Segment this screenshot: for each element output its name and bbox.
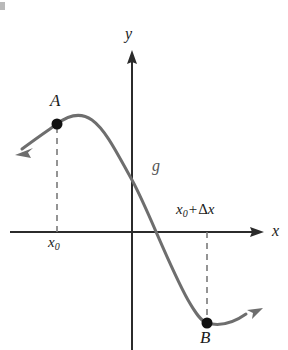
tick-label-delta-base: x xyxy=(176,201,183,217)
x-axis-arrowhead-icon xyxy=(250,227,264,237)
point-a-label: A xyxy=(50,92,60,109)
x-axis-label: x xyxy=(272,223,279,239)
y-axis-label: y xyxy=(125,26,132,42)
curve-right-arrowhead-icon xyxy=(247,308,263,319)
tick-label-x0-subscript: 0 xyxy=(55,241,60,252)
point-a-marker xyxy=(52,119,63,130)
tick-label-delta-operator: + xyxy=(188,201,198,217)
curve-function-label: g xyxy=(152,158,160,174)
tick-label-delta-symbol: Δ xyxy=(198,201,208,217)
y-axis xyxy=(127,50,137,350)
math-figure-g-secant: A B y x g x0 x0+Δx xyxy=(0,0,288,350)
tick-label-x0-plus-delta-x: x0+Δx xyxy=(176,202,214,219)
point-b-marker xyxy=(202,318,213,329)
tick-label-delta-subscript: 0 xyxy=(183,208,188,219)
curve-g xyxy=(15,115,263,324)
tick-label-x0: x0 xyxy=(48,235,60,252)
curve-left-arrowhead-icon xyxy=(15,148,33,158)
tick-label-x0-base: x xyxy=(48,234,55,250)
curve-g-path xyxy=(22,115,246,324)
point-b-label: B xyxy=(200,329,210,346)
tick-label-delta-var: x xyxy=(208,201,215,217)
diagram-canvas xyxy=(0,0,288,350)
y-axis-arrowhead-icon xyxy=(127,50,137,64)
